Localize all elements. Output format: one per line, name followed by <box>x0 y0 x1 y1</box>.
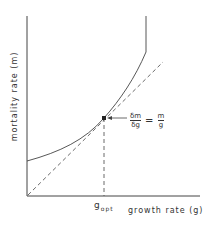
g-opt-main: g <box>94 200 101 210</box>
rhs-denominator: g <box>159 121 163 129</box>
y-axis-label: mortality rate (m) <box>10 47 19 147</box>
optimum-equation: δm δg = m g <box>130 112 164 129</box>
chart-canvas <box>0 0 212 234</box>
lhs-fraction: δm δg <box>130 112 141 129</box>
equals-sign: = <box>145 115 153 126</box>
lhs-numerator: δm <box>130 112 141 120</box>
tangent-point <box>102 116 106 120</box>
x-axis-label: growth rate (g) <box>128 206 204 215</box>
rhs-fraction: m g <box>158 112 165 129</box>
arrow-head <box>107 116 112 120</box>
mortality-curve <box>27 16 146 161</box>
g-opt-label: gopt <box>94 200 114 212</box>
lhs-denominator: δg <box>131 121 140 129</box>
g-opt-sub: opt <box>101 205 114 212</box>
rhs-numerator: m <box>158 112 165 120</box>
